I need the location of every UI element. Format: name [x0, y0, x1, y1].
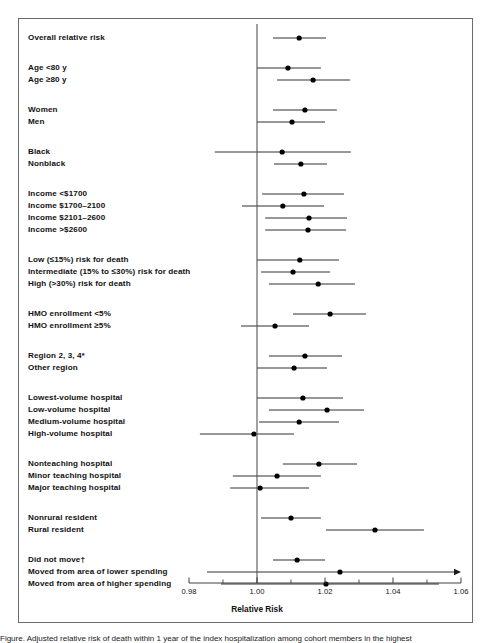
- point-estimate-marker: [291, 365, 296, 370]
- point-estimate-marker: [257, 485, 262, 490]
- row-label: Income >$2600: [28, 225, 87, 234]
- row-label: Nonblack: [28, 159, 65, 168]
- forest-row: [233, 473, 321, 478]
- forest-row: [207, 569, 461, 575]
- row-label: Nonrural resident: [28, 513, 97, 522]
- point-estimate-marker: [311, 77, 316, 82]
- forest-row: [257, 119, 325, 124]
- row-label: Rural resident: [28, 525, 84, 534]
- point-estimate-marker: [298, 161, 303, 166]
- forest-row: [326, 527, 424, 532]
- row-label: Minor teaching hospital: [28, 471, 121, 480]
- row-label: HMO enrollment ≥5%: [28, 321, 111, 330]
- forest-row: [257, 65, 321, 70]
- figure-forest-plot: Overall relative riskAge <80 yAge ≥80 yW…: [0, 0, 494, 643]
- row-label: Moved from area of higher spending: [28, 579, 171, 588]
- forest-row: [273, 107, 337, 112]
- row-label: Did not move†: [28, 555, 85, 564]
- point-estimate-marker: [297, 419, 302, 424]
- forest-row: [230, 485, 309, 490]
- forest-row: [257, 365, 327, 370]
- x-tick-label: 0.98: [182, 587, 197, 596]
- row-label: Age <80 y: [28, 63, 67, 72]
- forest-row: [200, 431, 294, 436]
- point-estimate-marker: [316, 281, 321, 286]
- row-label: Black: [28, 147, 50, 156]
- forest-row: [261, 269, 330, 274]
- forest-row: [273, 557, 325, 562]
- forest-row: [215, 149, 351, 154]
- forest-rows-group: [200, 35, 461, 586]
- forest-row: [261, 515, 321, 520]
- row-label: Men: [28, 117, 45, 126]
- forest-row: [293, 311, 366, 316]
- forest-row: [262, 191, 344, 196]
- forest-row: [277, 77, 350, 82]
- ci-arrow-right: [454, 569, 461, 575]
- x-tick-label: 1.04: [386, 587, 401, 596]
- point-estimate-marker: [295, 557, 300, 562]
- x-axis-group: [189, 24, 461, 583]
- forest-row: [242, 203, 324, 208]
- row-label: High (>30%) risk for death: [28, 279, 131, 288]
- point-estimate-marker: [306, 215, 311, 220]
- point-estimate-marker: [274, 473, 279, 478]
- forest-row: [283, 461, 357, 466]
- x-tick-label: 1.02: [318, 587, 333, 596]
- row-label: Region 2, 3, 4*: [28, 351, 85, 360]
- point-estimate-marker: [297, 35, 302, 40]
- point-estimate-marker: [280, 149, 285, 154]
- forest-row: [259, 419, 339, 424]
- forest-row: [265, 227, 346, 232]
- point-estimate-marker: [302, 107, 307, 112]
- row-label: High-volume hospital: [28, 429, 112, 438]
- row-label: Income <$1700: [28, 189, 87, 198]
- row-label: Overall relative risk: [28, 33, 105, 42]
- point-estimate-marker: [280, 203, 285, 208]
- point-estimate-marker: [289, 119, 294, 124]
- point-estimate-marker: [297, 257, 302, 262]
- figure-caption: Figure. Adjusted relative risk of death …: [0, 634, 494, 643]
- point-estimate-marker: [290, 269, 295, 274]
- point-estimate-marker: [272, 323, 277, 328]
- x-tick-label: 1.00: [250, 587, 265, 596]
- point-estimate-marker: [372, 527, 377, 532]
- row-label: Nonteaching hospital: [28, 459, 112, 468]
- row-label: Major teaching hospital: [28, 483, 121, 492]
- row-label: HMO enrollment <5%: [28, 309, 111, 318]
- row-label: Intermediate (15% to ≤30%) risk for deat…: [28, 267, 190, 276]
- point-estimate-marker: [288, 515, 293, 520]
- row-label: Low (≤15%) risk for death: [28, 255, 129, 264]
- row-label: Income $1700–2100: [28, 201, 105, 210]
- row-label: Women: [28, 105, 58, 114]
- point-estimate-marker: [300, 395, 305, 400]
- row-label: Income $2101–2600: [28, 213, 105, 222]
- point-estimate-marker: [302, 353, 307, 358]
- row-label: Lowest-volume hospital: [28, 393, 122, 402]
- point-estimate-marker: [251, 431, 256, 436]
- point-estimate-marker: [316, 461, 321, 466]
- point-estimate-marker: [328, 311, 333, 316]
- row-label: Other region: [28, 363, 78, 372]
- point-estimate-marker: [323, 581, 328, 586]
- row-label: Moved from area of lower spending: [28, 567, 168, 576]
- point-estimate-marker: [301, 191, 306, 196]
- forest-row: [273, 35, 326, 40]
- point-estimate-marker: [285, 65, 290, 70]
- forest-row: [257, 395, 343, 400]
- point-estimate-marker: [337, 569, 342, 574]
- x-tick-label: 1.06: [454, 587, 469, 596]
- row-label: Medium-volume hospital: [28, 417, 125, 426]
- forest-row: [221, 581, 439, 586]
- x-axis-title: Relative Risk: [231, 604, 283, 614]
- forest-row: [274, 161, 327, 166]
- row-label: Age ≥80 y: [28, 75, 67, 84]
- row-label: Low-volume hospital: [28, 405, 110, 414]
- forest-row: [269, 407, 364, 412]
- forest-row: [269, 353, 342, 358]
- point-estimate-marker: [324, 407, 329, 412]
- forest-row: [241, 323, 309, 328]
- forest-row: [269, 281, 355, 286]
- forest-row: [257, 257, 339, 262]
- point-estimate-marker: [305, 227, 310, 232]
